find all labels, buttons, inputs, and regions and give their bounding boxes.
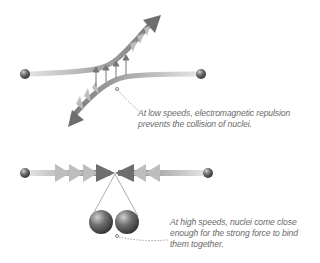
caption-line: At high speeds, nuclei come close <box>170 217 300 228</box>
fused-nucleus-left-icon <box>89 210 113 234</box>
nucleus-left-icon <box>20 168 30 178</box>
high-speed-caption: At high speeds, nuclei come close enough… <box>170 217 300 250</box>
caption-line: enough for the strong force to bind <box>170 228 300 239</box>
nucleus-right-icon <box>203 168 213 178</box>
nucleus-left-icon <box>20 69 30 79</box>
low-speed-caption: At low speeds, electromagnetic repulsion… <box>138 108 298 130</box>
caption-pointer <box>118 90 140 112</box>
caption-line: prevents the collision of nuclei. <box>138 119 298 130</box>
nucleus-right-icon <box>196 69 206 79</box>
caption-pointer <box>119 237 168 241</box>
caption-line: them together. <box>170 239 300 250</box>
caption-line: At low speeds, electromagnetic repulsion <box>138 108 298 119</box>
fused-nucleus-right-icon <box>115 210 139 234</box>
